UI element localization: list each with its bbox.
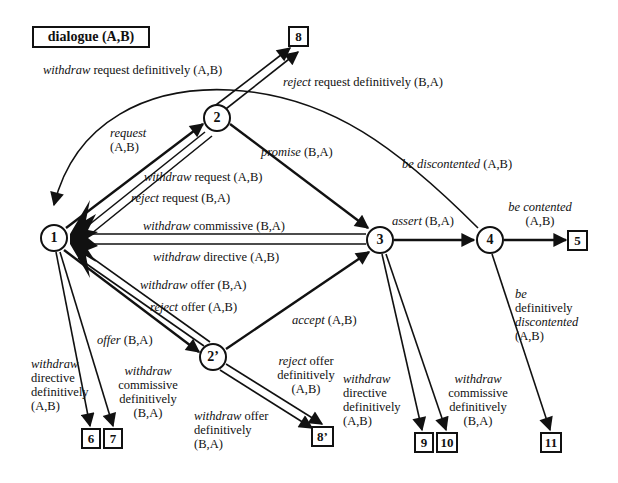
terminal-11: 11 bbox=[540, 432, 562, 453]
edge-withdraw-offer bbox=[84, 252, 210, 342]
edge-accept bbox=[226, 252, 369, 349]
state-node-2: 2 bbox=[203, 104, 231, 132]
label-withdraw-offer-definitively: withdraw offerdefinitively(B,A) bbox=[194, 409, 268, 451]
label-reject-request: reject request (B,A) bbox=[131, 191, 230, 205]
label-withdraw-request: withdraw request (A,B) bbox=[144, 170, 262, 184]
label-be-definitively-discontented: bedefinitivelydiscontented(A,B) bbox=[515, 287, 578, 343]
label-withdraw-request-definitively: withdraw request definitively (A,B) bbox=[43, 63, 222, 77]
state-node-1: 1 bbox=[40, 224, 68, 252]
label-withdraw-directive-definitively-3: withdrawdirectivedefinitively(A,B) bbox=[343, 372, 401, 428]
terminal-10: 10 bbox=[436, 432, 458, 453]
label-withdraw-offer: withdraw offer (B,A) bbox=[140, 278, 246, 292]
terminal-8-prime: 8’ bbox=[311, 426, 334, 447]
edge-withdraw-request-definitively bbox=[212, 48, 290, 108]
terminal-6: 6 bbox=[81, 428, 101, 449]
label-request: request(A,B) bbox=[110, 126, 146, 154]
terminal-9: 9 bbox=[414, 432, 434, 453]
state-node-3: 3 bbox=[366, 226, 394, 254]
terminal-5: 5 bbox=[567, 230, 588, 251]
label-accept: accept (A,B) bbox=[292, 313, 357, 327]
label-be-discontented: be discontented (A,B) bbox=[402, 157, 512, 171]
terminal-7: 7 bbox=[103, 428, 123, 449]
label-withdraw-commissive-definitively-3: withdrawcommissivedefinitively(B,A) bbox=[438, 372, 518, 428]
label-withdraw-directive-definitively-1: withdrawdirectivedefinitively(A,B) bbox=[31, 357, 89, 413]
label-reject-request-definitively: reject request definitively (B,A) bbox=[283, 75, 443, 89]
diagram-title: dialogue (A,B) bbox=[32, 26, 150, 48]
label-be-contented: be contented(A,B) bbox=[500, 200, 580, 228]
label-reject-offer-definitively: reject offerdefinitively(A,B) bbox=[268, 354, 344, 396]
label-reject-offer: reject offer (A,B) bbox=[150, 300, 237, 314]
label-assert: assert (B,A) bbox=[392, 214, 454, 228]
state-node-2-prime: 2’ bbox=[199, 343, 227, 371]
terminal-8: 8 bbox=[288, 26, 309, 47]
label-offer: offer (B,A) bbox=[97, 333, 153, 347]
label-withdraw-commissive: withdraw commissive (B,A) bbox=[143, 219, 285, 233]
label-promise: promise (B,A) bbox=[261, 145, 333, 159]
state-node-4: 4 bbox=[476, 226, 504, 254]
label-withdraw-commissive-definitively-1: withdrawcommissivedefinitively(B,A) bbox=[108, 364, 188, 420]
label-withdraw-directive: withdraw directive (A,B) bbox=[153, 250, 279, 264]
